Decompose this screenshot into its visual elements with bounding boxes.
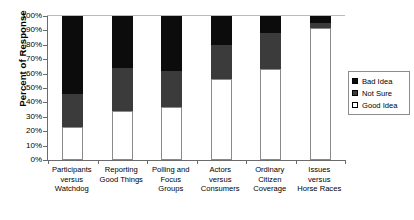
category-label: IssuesversusHorse Races [291,165,349,194]
legend-label: Not Sure [362,89,392,98]
x-tick-mark [48,160,49,164]
x-tick-mark [197,160,198,164]
bar-segment-good-idea [260,69,281,160]
bar-segment-good-idea [62,127,83,160]
legend-label: Bad Idea [362,77,392,86]
bar-segment-good-idea [310,28,331,160]
bar-group [260,16,281,160]
bar-group [310,16,331,160]
bar-segment-good-idea [112,111,133,160]
y-tick-label: 20% [8,126,42,135]
y-tick-label: 100% [8,11,42,20]
bar-segment-bad-idea [211,16,232,45]
bar-segment-bad-idea [112,16,133,68]
y-tick-label: 90% [8,25,42,34]
bar-segment-bad-idea [62,16,83,94]
legend-item[interactable]: Bad Idea [352,75,406,87]
stacked-bar [161,16,182,160]
y-tick-label: 0% [8,155,42,164]
bar-group [161,16,182,160]
category-label-line: versus [291,175,349,185]
bar-segment-not-sure [260,33,281,69]
bar-segment-good-idea [211,79,232,160]
x-tick-mark [147,160,148,164]
y-tick-label: 30% [8,112,42,121]
legend-swatch-icon [352,90,358,96]
stacked-bar [211,16,232,160]
y-tick-label: 10% [8,141,42,150]
bar-segment-not-sure [62,94,83,127]
bar-segment-bad-idea [161,16,182,71]
y-tick-label: 60% [8,69,42,78]
bar-segment-good-idea [161,107,182,160]
legend-swatch-icon [352,78,358,84]
chart-legend: Bad IdeaNot SureGood Idea [348,71,410,115]
bar-segment-not-sure [161,71,182,107]
legend-label: Good Idea [362,101,397,110]
x-tick-mark [296,160,297,164]
plot-area [47,16,345,161]
bar-segment-not-sure [211,45,232,80]
category-label-line: Watchdog [43,184,101,194]
legend-item[interactable]: Good Idea [352,99,406,111]
legend-swatch-icon [352,102,358,108]
bar-segment-not-sure [112,68,133,111]
stacked-bar [112,16,133,160]
y-tick-label: 70% [8,54,42,63]
stacked-bar [310,16,331,160]
stacked-bar [62,16,83,160]
y-tick-label: 40% [8,97,42,106]
y-tick-label: 80% [8,40,42,49]
y-tick-label: 50% [8,83,42,92]
bar-group [62,16,83,160]
bar-segment-not-sure [310,23,331,27]
bar-segment-bad-idea [310,16,331,23]
stacked-bar [260,16,281,160]
x-tick-mark [345,160,346,164]
bar-segment-bad-idea [260,16,281,33]
category-label-line: Issues [291,165,349,175]
category-label-line: Horse Races [291,184,349,194]
legend-item[interactable]: Not Sure [352,87,406,99]
stacked-bar-chart: Percent of Response 100%90%80%70%60%50%4… [0,0,414,220]
x-tick-mark [98,160,99,164]
x-tick-mark [246,160,247,164]
bar-group [211,16,232,160]
bar-group [112,16,133,160]
